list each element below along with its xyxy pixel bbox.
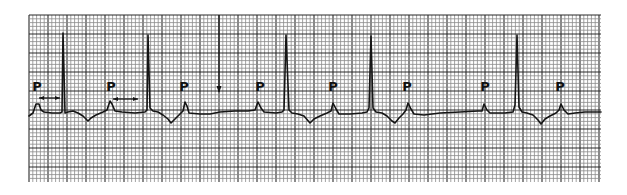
ecg-strip: PPPPPPPP — [0, 0, 627, 195]
arrowhead-left-icon — [113, 97, 118, 101]
annotations — [39, 15, 222, 101]
arrowhead-left-icon — [39, 96, 44, 100]
p-wave-label: P — [555, 79, 565, 94]
p-wave-label: P — [480, 79, 490, 94]
p-wave-label: P — [179, 79, 189, 94]
p-wave-label: P — [32, 79, 42, 94]
p-wave-label: P — [255, 79, 265, 94]
p-wave-label: P — [402, 79, 412, 94]
p-wave-label: P — [328, 79, 338, 94]
arrowhead-down-icon — [217, 86, 222, 93]
p-wave-label: P — [106, 79, 116, 94]
